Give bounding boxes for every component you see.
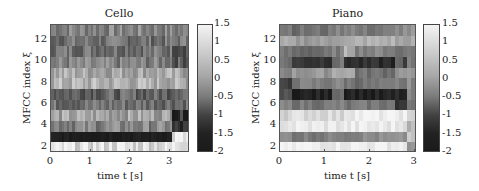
x-tick-label: 3 (406, 155, 422, 166)
y-tick-label: 12 (262, 33, 276, 44)
colorbar-tick-label: 1 (442, 35, 448, 46)
heatmap-row (280, 46, 415, 57)
piano-ylabel: MFCC index ξ (250, 52, 261, 124)
y-tick-label: 8 (262, 76, 276, 87)
y-tick-label: 4 (262, 118, 276, 129)
colorbar-tick-label: -1 (442, 108, 452, 119)
x-tick-mark (369, 149, 370, 152)
y-tick-label: 10 (262, 54, 276, 65)
piano-title: Piano (279, 7, 416, 20)
y-tick-label: 6 (262, 97, 276, 108)
piano-xlabel: time t [s] (307, 170, 387, 181)
x-tick-label: 2 (361, 155, 377, 166)
heatmap-row (280, 142, 415, 152)
x-tick-label: 0 (271, 155, 287, 166)
colorbar-tick-label: 0 (442, 72, 448, 83)
heatmap-row (280, 100, 415, 111)
x-tick-mark (324, 149, 325, 152)
piano-colorbar (423, 24, 440, 152)
piano-panel: Piano MFCC index ξ 24681012 0123 time t … (0, 0, 479, 191)
colorbar-tick-label: -2 (442, 145, 452, 156)
x-tick-label: 1 (316, 155, 332, 166)
x-tick-mark (414, 149, 415, 152)
heatmap-row (280, 110, 415, 121)
heatmap-row (280, 89, 415, 100)
heatmap-row (280, 57, 415, 68)
heatmap-row (280, 68, 415, 79)
heatmap-row (280, 132, 415, 143)
heatmap-row (280, 121, 415, 132)
heatmap-row (280, 25, 415, 36)
heatmap-row (280, 78, 415, 89)
colorbar-tick-label: 0.5 (442, 54, 458, 65)
piano-heatmap (279, 24, 416, 152)
colorbar-tick-label: -1.5 (442, 127, 461, 138)
y-tick-label: 2 (262, 140, 276, 151)
colorbar-tick-label: 1.5 (442, 17, 458, 28)
colorbar-tick-label: -0.5 (442, 90, 461, 101)
heatmap-row (280, 36, 415, 47)
x-tick-mark (279, 149, 280, 152)
